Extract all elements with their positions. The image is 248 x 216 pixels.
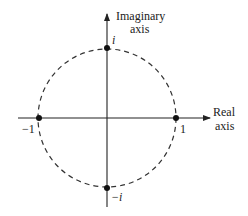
point-minus-i <box>104 185 110 191</box>
point-i <box>104 45 110 51</box>
label-minus-one: −1 <box>22 122 35 136</box>
complex-plane-diagram: Imaginary axis Real axis i −i 1 −1 <box>0 0 248 216</box>
label-minus-i: −i <box>111 190 122 204</box>
imaginary-axis-label-line1: Imaginary <box>116 9 165 23</box>
point-minus-one <box>36 115 42 121</box>
label-one: 1 <box>180 122 186 136</box>
label-i: i <box>112 33 115 47</box>
real-axis-label-line1: Real <box>213 105 236 119</box>
point-one <box>173 115 179 121</box>
imaginary-axis-label-line2: axis <box>130 22 150 36</box>
real-axis-label-line2: axis <box>215 119 235 133</box>
